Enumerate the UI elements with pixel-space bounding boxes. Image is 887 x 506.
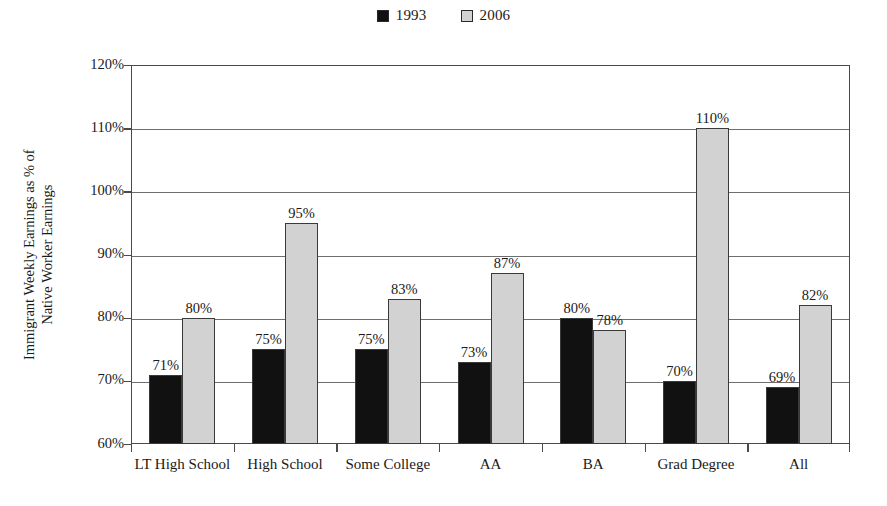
bar-1993: 71%	[149, 375, 182, 444]
bar-value-label: 71%	[153, 357, 180, 374]
bar-2006: 83%	[388, 299, 421, 444]
x-tick-mark	[439, 444, 440, 452]
bar-1993: 80%	[560, 318, 593, 444]
bar-group: 75%95%	[252, 65, 318, 444]
y-tick-text: 90%	[97, 245, 131, 262]
legend-label-2006: 2006	[480, 8, 511, 23]
x-axis-label-all: All	[789, 456, 808, 473]
bar-value-label: 87%	[494, 255, 521, 272]
bar-group: 75%83%	[355, 65, 421, 444]
x-axis-label-some-college: Some College	[345, 456, 430, 473]
bar-2006: 87%	[491, 273, 524, 444]
y-axis-title-line-1: Immigrant Weekly Earnings as % of	[20, 150, 36, 361]
x-tick-mark	[336, 444, 337, 452]
bar-1993: 73%	[458, 362, 491, 444]
bar-value-label: 82%	[802, 287, 829, 304]
x-axis-ticks	[131, 444, 850, 454]
x-tick-mark	[542, 444, 543, 452]
x-tick-mark	[849, 444, 850, 452]
chart-legend: 1993 2006	[0, 8, 887, 23]
bar-chart: 1993 2006 Immigrant Weekly Earnings as %…	[0, 0, 887, 506]
x-axis-label-ba: BA	[583, 456, 604, 473]
bar-value-label: 80%	[563, 300, 590, 317]
y-axis-title-line-2: Native Worker Earnings	[38, 185, 54, 325]
bar-1993: 69%	[766, 387, 799, 444]
bar-2006: 78%	[593, 330, 626, 444]
legend-label-1993: 1993	[396, 8, 427, 23]
bar-2006: 82%	[799, 305, 832, 444]
y-tick-text: 100%	[90, 182, 131, 199]
bar-2006: 110%	[696, 128, 729, 444]
y-tick-text: 110%	[91, 119, 131, 136]
y-tick-text: 120%	[90, 56, 131, 73]
x-tick-mark	[131, 444, 132, 452]
bar-1993: 70%	[663, 381, 696, 444]
bar-group: 71%80%	[149, 65, 215, 444]
legend-swatch-2006-icon	[461, 10, 473, 22]
bar-value-label: 83%	[391, 281, 418, 298]
bar-1993: 75%	[355, 349, 388, 444]
bar-group: 73%87%	[458, 65, 524, 444]
y-tick-text: 80%	[97, 308, 131, 325]
x-axis-label-lt-high-school: LT High School	[134, 456, 230, 473]
bar-2006: 95%	[285, 223, 318, 444]
bar-value-label: 75%	[358, 331, 385, 348]
x-axis-label-high-school: High School	[247, 456, 322, 473]
bar-value-label: 73%	[461, 344, 488, 361]
bar-value-label: 78%	[596, 312, 623, 329]
bar-2006: 80%	[182, 318, 215, 444]
x-axis-labels: LT High SchoolHigh SchoolSome CollegeAAB…	[131, 456, 850, 480]
bar-value-label: 75%	[255, 331, 282, 348]
bar-value-label: 95%	[288, 205, 315, 222]
bar-1993: 75%	[252, 349, 285, 444]
x-tick-mark	[234, 444, 235, 452]
y-tick-text: 60%	[97, 435, 131, 452]
x-axis-label-grad-degree: Grad Degree	[657, 456, 734, 473]
legend-swatch-1993-icon	[377, 10, 389, 22]
bar-group: 69%82%	[766, 65, 832, 444]
y-tick-text: 70%	[97, 371, 131, 388]
x-axis-label-aa: AA	[480, 456, 502, 473]
bar-value-label: 69%	[769, 369, 796, 386]
bar-group: 80%78%	[560, 65, 626, 444]
bar-value-label: 110%	[696, 110, 729, 127]
x-tick-mark	[645, 444, 646, 452]
bars-layer: 71%80%75%95%75%83%73%87%80%78%70%110%69%…	[131, 65, 850, 444]
legend-item-1993: 1993	[377, 8, 427, 23]
bar-value-label: 80%	[186, 300, 213, 317]
bar-group: 70%110%	[663, 65, 729, 444]
y-axis-title: Immigrant Weekly Earnings as % of Native…	[18, 65, 58, 445]
x-tick-mark	[747, 444, 748, 452]
legend-item-2006: 2006	[461, 8, 511, 23]
bar-value-label: 70%	[666, 363, 693, 380]
